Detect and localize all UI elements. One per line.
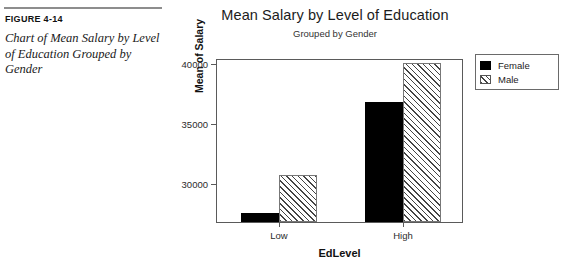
- legend-swatch-male-icon: [480, 75, 491, 84]
- y-tick-mark-30000: [211, 184, 217, 185]
- figure-caption: FIGURE 4-14 Chart of Mean Salary by Leve…: [5, 14, 165, 78]
- x-tick-label-high: High: [393, 230, 413, 241]
- x-tick-label-low: Low: [270, 230, 287, 241]
- legend-item-male: Male: [480, 73, 553, 85]
- x-tick-mark-low: [279, 222, 280, 227]
- x-axis-title: EdLevel: [216, 247, 463, 259]
- y-axis-title: Mean of Salary: [193, 19, 205, 93]
- legend-swatch-female-icon: [480, 61, 491, 70]
- x-tick-mark-high: [403, 222, 404, 227]
- y-tick-mark-40000: [211, 64, 217, 65]
- legend-label-male: Male: [498, 74, 519, 85]
- legend-label-female: Female: [498, 60, 530, 71]
- bar-female-high: [365, 102, 403, 222]
- chart-container: Mean Salary by Level of Education Groupe…: [175, 0, 574, 277]
- y-tick-mark-35000: [211, 124, 217, 125]
- plot-area: Mean of Salary 40000 35000 30000 Low Hig…: [216, 59, 463, 223]
- y-tick-label-35000: 35000: [182, 119, 208, 130]
- chart-title: Mean Salary by Level of Education: [175, 7, 495, 23]
- bar-male-high: [403, 63, 441, 222]
- chart-legend: Female Male: [475, 54, 559, 90]
- legend-item-female: Female: [480, 59, 553, 71]
- bar-female-low: [241, 213, 279, 222]
- y-tick-label-30000: 30000: [182, 179, 208, 190]
- bar-male-low: [279, 175, 317, 222]
- figure-description: Chart of Mean Salary by Level of Educati…: [5, 31, 165, 78]
- caption-rule: [4, 7, 162, 9]
- figure-number: FIGURE 4-14: [5, 14, 165, 24]
- y-tick-label-40000: 40000: [182, 59, 208, 70]
- chart-subtitle: Grouped by Gender: [175, 28, 495, 39]
